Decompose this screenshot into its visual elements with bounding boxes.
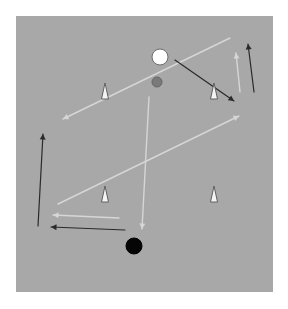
pass-long-diagonal [58, 116, 239, 204]
arrowhead-icon [51, 224, 57, 230]
gray-ball-icon [152, 77, 162, 87]
drill-diagram [0, 0, 288, 309]
arrowhead-icon [53, 212, 59, 218]
run-right-up [248, 44, 254, 92]
pass-bottom-left [53, 215, 119, 218]
arrowhead-icon [228, 95, 234, 101]
run-bottom-left [51, 227, 125, 230]
run-left-up [38, 134, 43, 226]
pass-right-up [236, 53, 240, 92]
pass-top-diagonal [63, 38, 230, 119]
cone-icon [211, 186, 218, 202]
black-ball-icon [126, 238, 142, 254]
arrowhead-icon [234, 53, 240, 59]
white-ball-icon [152, 49, 168, 65]
cone-icon [102, 83, 109, 99]
cone-icon [102, 186, 109, 202]
arrowhead-icon [139, 223, 145, 229]
run-ball-to-corner [175, 60, 234, 101]
arrowhead-icon [40, 134, 46, 140]
